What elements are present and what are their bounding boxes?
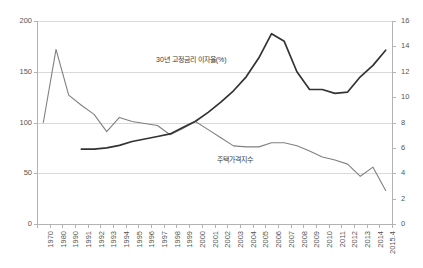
series-annotation-housing-price-index: 주택가격지수 [217, 155, 253, 164]
plot-lines [0, 0, 423, 268]
chart-container: 050100150200 0246810121416 1970198019901… [0, 0, 423, 268]
series-line-housing-price-index [43, 49, 385, 190]
series-line-mortgage-rate [81, 34, 385, 149]
series-annotation-mortgage-rate: 30년 고정금리 이자율(%) [156, 55, 227, 64]
